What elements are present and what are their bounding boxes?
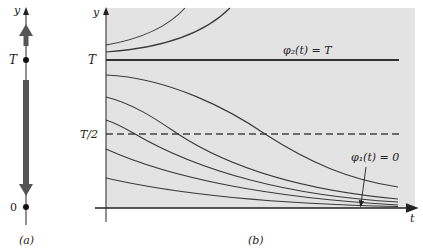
phase-axis-label: y (13, 4, 21, 17)
down-arrow-icon (19, 80, 33, 196)
equilibrium-zero-dot (23, 204, 29, 210)
y-axis-label: y (92, 6, 100, 19)
plot-background (106, 8, 415, 208)
caption-a: (a) (19, 234, 34, 247)
tick-T-label-b: T (88, 53, 97, 67)
panel-a: y T 0 (a) (9, 4, 34, 247)
tick-zero-label: 0 (10, 201, 17, 214)
panel-b: φ₂(t) = T t y T T/2 φ₁(t) = 0 (b) (80, 6, 415, 247)
caption-b: (b) (248, 234, 264, 247)
phi1-label: φ₁(t) = 0 (351, 151, 399, 164)
t-axis-label: t (410, 212, 415, 225)
tick-T-half-label: T/2 (80, 128, 98, 141)
tick-T-label: T (9, 53, 18, 67)
up-arrow-icon (19, 24, 33, 46)
diagram-root: y T 0 (a) φ₂(t) = T (0, 0, 423, 249)
equilibrium-T-dot (23, 57, 29, 63)
phi2-label: φ₂(t) = T (283, 44, 333, 57)
